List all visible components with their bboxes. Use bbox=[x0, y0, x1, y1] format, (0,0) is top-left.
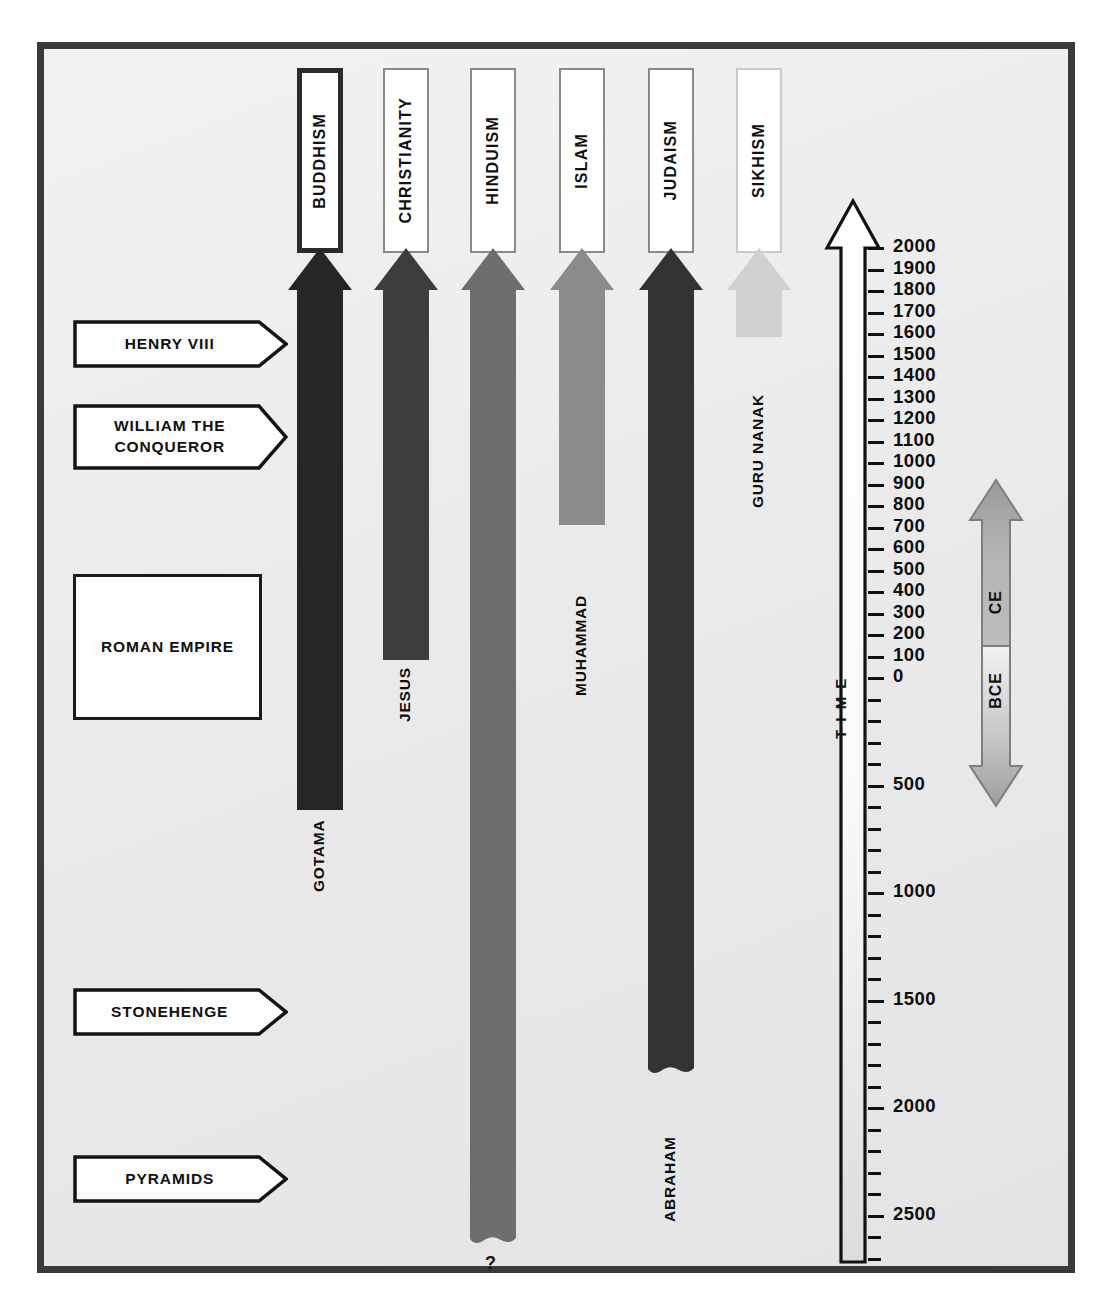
axis-tick-label: 800 bbox=[893, 493, 925, 515]
arrowbody-judaism bbox=[648, 289, 694, 1063]
axis-tick bbox=[868, 1193, 881, 1196]
founder-label-jesus: JESUS bbox=[396, 632, 414, 722]
axis-tick-label: 500 bbox=[893, 773, 925, 795]
religion-arrow-sikhism bbox=[736, 248, 782, 337]
axis-tick-label: 1300 bbox=[893, 386, 936, 408]
religion-label-judaism: JUDAISM bbox=[662, 120, 680, 200]
axis-tick bbox=[868, 785, 884, 788]
religion-label-buddhism: BUDDHISM bbox=[311, 113, 329, 209]
axis-tick bbox=[868, 892, 884, 895]
event-banner-henry-viii[interactable]: HENRY VIII bbox=[73, 320, 288, 368]
axis-tick-label: 100 bbox=[893, 644, 925, 666]
axis-tick bbox=[868, 269, 884, 272]
founder-label-guru-nanak: GURU NANAK bbox=[749, 358, 767, 508]
axis-tick bbox=[868, 527, 884, 530]
axis-tick bbox=[868, 1107, 884, 1110]
axis-tick-label: 1200 bbox=[893, 407, 936, 429]
religion-box-hinduism[interactable]: HINDUISM bbox=[470, 68, 516, 253]
event-label-pyramids: PYRAMIDS bbox=[77, 1169, 262, 1190]
event-label-line-2: CONQUEROR bbox=[77, 437, 262, 458]
arrowhead-christianity bbox=[374, 248, 438, 290]
axis-tick-label: 0 bbox=[893, 665, 904, 687]
religion-box-sikhism[interactable]: SIKHISM bbox=[736, 68, 782, 253]
axis-tick bbox=[868, 398, 884, 401]
axis-tick-label: 1500 bbox=[893, 343, 936, 365]
legend-label-bce: BCE bbox=[987, 672, 1005, 709]
religion-box-buddhism[interactable]: BUDDHISM bbox=[297, 68, 343, 253]
event-banner-stonehenge[interactable]: STONEHENGE bbox=[73, 988, 288, 1036]
axis-tick bbox=[868, 763, 881, 766]
religion-arrow-judaism bbox=[648, 248, 694, 1075]
axis-tick-label: 1100 bbox=[893, 429, 935, 451]
axis-tick bbox=[868, 376, 884, 379]
axis-tick bbox=[868, 591, 884, 594]
axis-tick-label: 1000 bbox=[893, 450, 936, 472]
axis-tick bbox=[868, 935, 881, 938]
event-banner-pyramids[interactable]: PYRAMIDS bbox=[73, 1155, 288, 1203]
axis-tick bbox=[868, 742, 881, 745]
axis-tick bbox=[868, 312, 884, 315]
axis-tick bbox=[868, 484, 884, 487]
arrowbody-christianity bbox=[383, 289, 429, 660]
arrowbody-islam bbox=[559, 289, 605, 525]
arrowbody-hinduism bbox=[470, 289, 516, 1233]
arrowhead-judaism bbox=[639, 248, 703, 290]
axis-tick bbox=[868, 1236, 881, 1239]
founder-label-muhammad: MUHAMMAD bbox=[572, 556, 590, 696]
axis-tick bbox=[868, 548, 884, 551]
axis-tick bbox=[868, 419, 884, 422]
axis-tick bbox=[868, 333, 884, 336]
axis-tick bbox=[868, 978, 881, 981]
axis-tick bbox=[868, 1021, 881, 1024]
religion-box-christianity[interactable]: CHRISTIANITY bbox=[383, 68, 429, 253]
axis-tick-label: 300 bbox=[893, 601, 925, 623]
religion-arrow-buddhism bbox=[297, 248, 343, 810]
axis-tick bbox=[868, 1086, 881, 1089]
axis-tick bbox=[868, 505, 884, 508]
axis-tick bbox=[868, 1258, 881, 1261]
religion-arrow-christianity bbox=[383, 248, 429, 660]
axis-tick bbox=[868, 441, 884, 444]
arrowbody-sikhism bbox=[736, 289, 782, 337]
axis-tick-label: 600 bbox=[893, 536, 925, 558]
event-label-roman-empire: ROMAN EMPIRE bbox=[101, 637, 234, 658]
axis-tick bbox=[868, 1129, 881, 1132]
axis-tick-label: 1800 bbox=[893, 278, 936, 300]
axis-tick bbox=[868, 462, 884, 465]
founder-label-hinduism-unknown: ? bbox=[485, 1253, 496, 1274]
religion-label-hinduism: HINDUISM bbox=[484, 116, 502, 205]
event-banner-william-the-conqueror[interactable]: WILLIAM THE CONQUEROR bbox=[73, 404, 288, 470]
axis-tick-label: 700 bbox=[893, 515, 925, 537]
axis-tick bbox=[868, 656, 884, 659]
axis-tick-label: 2000 bbox=[893, 1095, 936, 1117]
axis-tick bbox=[868, 355, 884, 358]
axis-tick bbox=[868, 1064, 881, 1067]
arrowhead-hinduism bbox=[461, 248, 525, 290]
axis-tick-label: 400 bbox=[893, 579, 925, 601]
axis-tick-label: 2000 bbox=[893, 235, 936, 257]
axis-tick-label: 900 bbox=[893, 472, 925, 494]
religion-label-islam: ISLAM bbox=[573, 133, 591, 189]
event-banner-roman-empire[interactable]: ROMAN EMPIRE bbox=[73, 574, 262, 720]
religion-box-islam[interactable]: ISLAM bbox=[559, 68, 605, 253]
axis-tick bbox=[868, 871, 881, 874]
arrow-wavy-end-hinduism bbox=[470, 1229, 516, 1245]
axis-tick-label: 1900 bbox=[893, 257, 936, 279]
axis-tick bbox=[868, 849, 881, 852]
founder-label-abraham: ABRAHAM bbox=[661, 1092, 679, 1222]
timeline-diagram: BUDDHISM CHRISTIANITY HINDUISM ISLAM JUD… bbox=[0, 0, 1114, 1308]
axis-tick-label: 1600 bbox=[893, 321, 936, 343]
time-axis-label: T I M E bbox=[832, 600, 850, 815]
event-label-stonehenge: STONEHENGE bbox=[77, 1002, 262, 1023]
event-label-line-1: WILLIAM THE bbox=[77, 416, 262, 437]
axis-tick bbox=[868, 677, 884, 680]
arrowhead-buddhism bbox=[288, 248, 352, 290]
axis-tick bbox=[868, 828, 881, 831]
axis-tick-label: 1000 bbox=[893, 880, 936, 902]
ce-bce-legend-arrow bbox=[965, 478, 1027, 808]
religion-box-judaism[interactable]: JUDAISM bbox=[648, 68, 694, 253]
axis-tick bbox=[868, 1043, 881, 1046]
legend-label-ce: CE bbox=[987, 590, 1005, 614]
religion-label-sikhism: SIKHISM bbox=[750, 123, 768, 198]
axis-tick-label: 1700 bbox=[893, 300, 936, 322]
